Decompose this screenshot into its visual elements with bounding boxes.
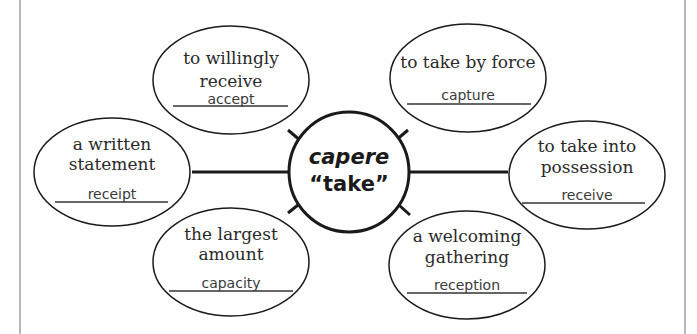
node-top-left: to willingly receive accept <box>153 26 309 134</box>
center-node: capere “take” <box>289 112 409 232</box>
answer-receive: receive <box>561 187 612 203</box>
answer-reception: reception <box>434 277 500 293</box>
svg-text:amount: amount <box>198 244 263 264</box>
answer-accept: accept <box>208 91 255 107</box>
svg-text:gathering: gathering <box>425 247 509 267</box>
svg-text:statement: statement <box>69 154 156 174</box>
answer-receipt: receipt <box>88 186 137 202</box>
node-top-right: to take by force capture <box>390 24 546 132</box>
svg-text:a welcoming: a welcoming <box>413 226 522 246</box>
node-left: a written statement receipt <box>34 118 190 226</box>
svg-text:a written: a written <box>73 134 151 154</box>
svg-text:possession: possession <box>541 157 634 177</box>
word-web-diagram: capere “take” to willingly receive accep… <box>0 0 697 334</box>
node-bottom-left: the largest amount capacity <box>153 208 309 316</box>
center-latin-word: capere <box>309 145 390 169</box>
svg-text:to take into: to take into <box>538 136 637 156</box>
svg-text:the largest: the largest <box>184 224 278 244</box>
svg-text:to take by force: to take by force <box>400 52 535 72</box>
center-meaning: “take” <box>309 172 388 196</box>
svg-text:to willingly: to willingly <box>183 48 279 68</box>
node-bottom-right: a welcoming gathering reception <box>389 211 545 319</box>
svg-text:receive: receive <box>200 71 263 91</box>
answer-capacity: capacity <box>201 275 260 291</box>
node-right: to take into possession receive <box>509 121 665 229</box>
answer-capture: capture <box>441 87 495 103</box>
